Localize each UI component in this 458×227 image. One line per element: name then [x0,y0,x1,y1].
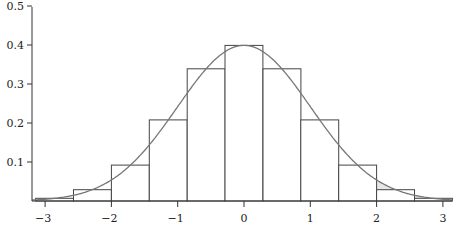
histogram-bar [187,69,225,201]
histogram-bar [263,69,301,201]
y-axis-ticks: 0.10.20.30.40.5 [7,0,33,169]
x-tick-label: −2 [101,212,117,225]
histogram-bar [339,165,377,201]
x-tick-label: 2 [373,212,380,225]
x-tick-label: −1 [168,212,184,225]
histogram-bar [377,190,415,201]
y-tick-label: 0.5 [7,0,25,13]
y-tick-label: 0.4 [7,39,25,52]
x-tick-label: 3 [439,212,446,225]
y-tick-label: 0.1 [7,156,25,169]
y-tick-label: 0.2 [7,117,25,130]
histogram-bar [111,165,149,201]
x-tick-label: 0 [241,212,248,225]
histogram-bars [36,45,453,201]
histogram-bar [225,45,263,201]
y-tick-label: 0.3 [7,78,25,91]
histogram-chart: 0.10.20.30.40.5 −3−2−10123 [0,0,458,227]
x-tick-label: 1 [307,212,314,225]
x-axis-ticks: −3−2−10123 [35,201,446,225]
histogram-bar [301,120,339,201]
histogram-bar [74,190,112,201]
histogram-bar [149,120,187,201]
x-tick-label: −3 [35,212,51,225]
